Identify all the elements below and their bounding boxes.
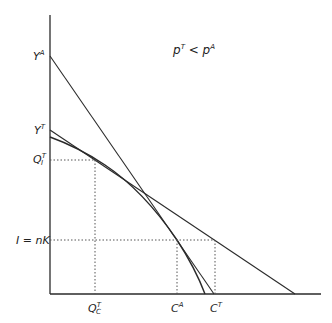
CA-base: C bbox=[171, 302, 179, 315]
label-InK: I = nK bbox=[16, 235, 50, 246]
YA-base: Y bbox=[33, 50, 40, 63]
production-frontier-curve bbox=[50, 137, 205, 294]
InK-text: I = nK bbox=[16, 234, 50, 247]
label-QC: QTC bbox=[88, 302, 101, 316]
label-YT: YT bbox=[34, 124, 45, 136]
p-trade-base: p bbox=[173, 43, 181, 57]
QC-sub: C bbox=[96, 308, 101, 316]
label-CA: CA bbox=[171, 302, 183, 314]
label-QI: QTI bbox=[33, 153, 43, 167]
CT-sup: T bbox=[218, 301, 222, 309]
price-comparison-annotation: pT < pA bbox=[173, 44, 215, 56]
diagram-canvas bbox=[0, 0, 332, 323]
label-CT: CT bbox=[210, 302, 222, 314]
label-YA: YA bbox=[33, 50, 45, 62]
CA-sup: A bbox=[179, 301, 184, 309]
YA-sup: A bbox=[40, 49, 45, 57]
autarky-price-line bbox=[50, 56, 214, 294]
p-autarky-sup: A bbox=[210, 43, 215, 51]
YT-base: Y bbox=[34, 124, 41, 137]
YT-sup: T bbox=[41, 123, 45, 131]
CT-base: C bbox=[210, 302, 218, 315]
less-than: < bbox=[185, 43, 203, 57]
QI-sub: I bbox=[41, 159, 43, 167]
